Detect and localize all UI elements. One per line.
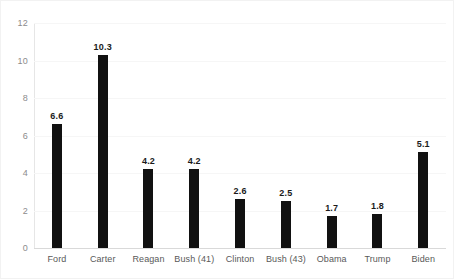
- x-tick-label-bush-41: Bush (41): [171, 254, 217, 264]
- bar-reagan[interactable]: [143, 169, 153, 248]
- y-tick-label-12: 12: [18, 18, 28, 28]
- x-tick-label-obama: Obama: [309, 254, 355, 264]
- bar-obama[interactable]: [327, 216, 337, 248]
- bar-value-obama: 1.7: [325, 203, 338, 213]
- bar-clinton[interactable]: [235, 199, 245, 248]
- y-tick-label-8: 8: [23, 93, 28, 103]
- bar-group-bush-43: 2.5: [263, 23, 309, 248]
- bar-trump[interactable]: [372, 214, 382, 248]
- bar-group-clinton: 2.6: [217, 23, 263, 248]
- bar-value-bush-41: 4.2: [188, 156, 201, 166]
- bar-value-biden: 5.1: [417, 139, 430, 149]
- x-tick-label-bush-43: Bush (43): [263, 254, 309, 264]
- x-tick-label-ford: Ford: [34, 254, 80, 264]
- bar-biden[interactable]: [418, 152, 428, 248]
- bar-value-bush-43: 2.5: [279, 188, 292, 198]
- y-tick-label-0: 0: [23, 243, 28, 253]
- bar-group-trump: 1.8: [355, 23, 401, 248]
- y-axis: 0 2 4 6 8 10 12: [1, 1, 28, 279]
- bar-group-biden: 5.1: [400, 23, 446, 248]
- y-tick-label-6: 6: [23, 131, 28, 141]
- bar-ford[interactable]: [52, 124, 62, 248]
- bar-group-reagan: 4.2: [126, 23, 172, 248]
- bar-value-carter: 10.3: [94, 42, 112, 52]
- x-tick-label-carter: Carter: [80, 254, 126, 264]
- bar-group-bush-41: 4.2: [171, 23, 217, 248]
- bar-bush-43[interactable]: [281, 201, 291, 248]
- x-tick-label-reagan: Reagan: [126, 254, 172, 264]
- bar-value-ford: 6.6: [50, 111, 63, 121]
- bar-group-obama: 1.7: [309, 23, 355, 248]
- bar-value-clinton: 2.6: [234, 186, 247, 196]
- y-tick-label-2: 2: [23, 206, 28, 216]
- y-tick-label-4: 4: [23, 168, 28, 178]
- plot-area: 6.6 10.3 4.2 4.2 2.6 2.5 1.7 1.8: [34, 23, 446, 248]
- x-axis-line: [34, 248, 446, 249]
- x-tick-label-clinton: Clinton: [217, 254, 263, 264]
- bar-group-ford: 6.6: [34, 23, 80, 248]
- bar-bush-41[interactable]: [189, 169, 199, 248]
- bar-carter[interactable]: [98, 55, 108, 248]
- bar-value-reagan: 4.2: [142, 156, 155, 166]
- x-axis: Ford Carter Reagan Bush (41) Clinton Bus…: [34, 251, 446, 271]
- bar-value-trump: 1.8: [371, 201, 384, 211]
- bar-chart: 0 2 4 6 8 10 12 6.6 10.3 4.2 4.2: [0, 0, 454, 279]
- y-tick-label-10: 10: [18, 56, 28, 66]
- x-tick-label-biden: Biden: [400, 254, 446, 264]
- bar-group-carter: 10.3: [80, 23, 126, 248]
- x-tick-label-trump: Trump: [355, 254, 401, 264]
